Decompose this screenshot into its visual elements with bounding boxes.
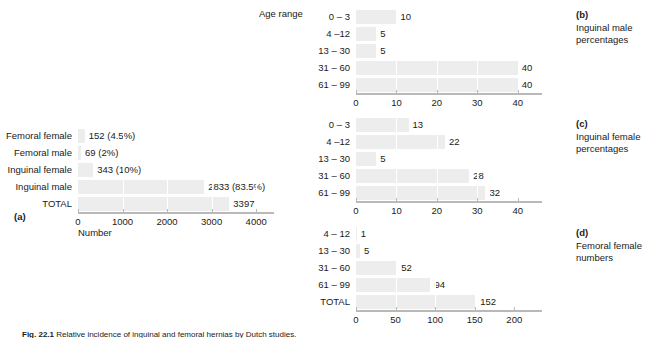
chart-b-tick: [437, 90, 438, 93]
chart-d-tick: [396, 307, 397, 310]
chart-a-row: Inguinal male2833 (83.5%): [78, 178, 274, 195]
chart-b-caption: Inguinal male percentages: [576, 22, 633, 45]
chart-a-row: Inguinal female343 (10%): [78, 161, 274, 178]
chart-a-tick: [167, 209, 168, 212]
chart-d-panel-letter: (d): [576, 227, 588, 238]
chart-a-axis-line: [78, 212, 274, 214]
chart-a-tick-label: 0: [75, 216, 80, 227]
chart-c-tick: [437, 198, 438, 201]
chart-b-axis-line: [356, 93, 542, 95]
chart-d-tick-label: 50: [390, 314, 401, 325]
chart-a-row-label: Femoral female: [6, 127, 78, 144]
chart-b-row: 0 – 310: [356, 8, 542, 25]
chart-d-caption: Femoral female numbers: [576, 240, 642, 263]
chart-a-bar-value: 3397: [229, 195, 254, 212]
chart-d-tick: [514, 307, 515, 310]
chart-b-row: 13 – 305: [356, 42, 542, 59]
chart-c-row: 13 – 305: [356, 150, 542, 167]
chart-c-tick-label: 0: [353, 205, 358, 216]
chart-c-tick-label: 20: [432, 205, 443, 216]
chart-b-bar-value: 5: [376, 42, 385, 59]
chart-b-row-label: 31 – 60: [318, 59, 356, 76]
chart-b-bar: [356, 10, 396, 24]
chart-c-row: 31 – 6028: [356, 167, 542, 184]
figure-caption-text: Relative incidence of inguinal and femor…: [56, 330, 296, 338]
chart-d-bar: [356, 295, 476, 309]
chart-b-tick-label: 10: [391, 97, 402, 108]
chart-c-tick-label: 10: [391, 205, 402, 216]
chart-d-gridline: [514, 225, 515, 310]
chart-d-bar: [356, 261, 397, 275]
chart-d-row-label: 13 – 30: [318, 242, 356, 259]
chart-a-tick: [256, 209, 257, 212]
chart-b-bar: [356, 44, 376, 58]
chart-d-bar-value: 1: [357, 225, 366, 242]
chart-a-tick: [123, 209, 124, 212]
chart-b-bar-value: 5: [376, 25, 385, 42]
chart-c-bar: [356, 118, 409, 132]
chart-d-tick-label: 100: [427, 314, 443, 325]
chart-d-rows: 4 – 12113 – 30531 – 605261 – 9994TOTAL15…: [356, 225, 542, 310]
chart-a-row: Femoral male69 (2%): [78, 144, 274, 161]
chart-b-row: 4 –125: [356, 25, 542, 42]
chart-a-gridline: [212, 127, 213, 212]
chart-c-bar-value: 13: [409, 116, 424, 133]
chart-c-bar: [356, 152, 376, 166]
chart-d-bar-value: 94: [430, 276, 445, 293]
chart-a-bar: [78, 129, 85, 143]
chart-c-row-label: 0 – 3: [329, 116, 356, 133]
chart-d-tick: [356, 307, 357, 310]
age-range-header: Age range: [259, 8, 303, 19]
chart-b-tick: [518, 90, 519, 93]
chart-d-tick-label: 0: [353, 314, 358, 325]
chart-c-tick-label: 40: [512, 205, 523, 216]
chart-b-rows: 0 – 3104 –12513 – 30531 – 604061 – 9940: [356, 8, 542, 93]
chart-a-tick-label: 1000: [112, 216, 133, 227]
chart-c-bar: [356, 135, 445, 149]
chart-c-tick-label: 30: [472, 205, 483, 216]
chart-a-tick-label: 3000: [201, 216, 222, 227]
chart-a-bar: [78, 163, 93, 177]
chart-a-panel-letter: (a): [14, 211, 26, 222]
chart-a-bar: [78, 197, 229, 211]
chart-c-gridline: [396, 116, 397, 201]
chart-b-bar-value: 10: [396, 8, 411, 25]
chart-a-gridline: [167, 127, 168, 212]
chart-d-bar-value: 152: [476, 293, 496, 310]
chart-b-tick-label: 30: [472, 97, 483, 108]
chart-c-row: 4 –1222: [356, 133, 542, 150]
chart-b-tick-label: 20: [432, 97, 443, 108]
chart-c-row-label: 61 – 99: [318, 184, 356, 201]
chart-b-panel: 0 – 3104 –12513 – 30531 – 604061 – 9940 …: [356, 8, 542, 93]
chart-a-tick-label: 4000: [246, 216, 267, 227]
chart-c-gridline: [518, 116, 519, 201]
chart-a-row-label: TOTAL: [42, 195, 78, 212]
chart-c-caption: Inguinal female percentages: [576, 131, 640, 154]
chart-c-row: 0 – 313: [356, 116, 542, 133]
chart-a-tick: [78, 209, 79, 212]
chart-c-row: 61 – 9932: [356, 184, 542, 201]
figure-caption-prefix: Fig. 22.1: [22, 330, 54, 338]
chart-c-row-label: 13 – 30: [318, 150, 356, 167]
chart-d-tick-label: 200: [506, 314, 522, 325]
chart-d-bar-value: 5: [360, 242, 369, 259]
chart-c-bar-value: 5: [376, 150, 385, 167]
chart-b-tick: [396, 90, 397, 93]
chart-d-gridline: [396, 225, 397, 310]
chart-a-row: Femoral female152 (4.5%): [78, 127, 274, 144]
chart-a-tick: [212, 209, 213, 212]
chart-b-row: 61 – 9940: [356, 76, 542, 93]
chart-a-tick-label: 2000: [157, 216, 178, 227]
chart-b-bar: [356, 27, 376, 41]
figure-caption: Fig. 22.1 Relative incidence of inguinal…: [22, 330, 296, 338]
chart-c-panel: 0 – 3134 –122213 – 30531 – 602861 – 9932…: [356, 116, 542, 201]
chart-c-gridline: [437, 116, 438, 201]
chart-d-bar-value: 52: [397, 259, 412, 276]
chart-d-row-label: 31 – 60: [318, 259, 356, 276]
chart-c-bar-value: 22: [445, 133, 460, 150]
chart-d-tick-label: 150: [467, 314, 483, 325]
chart-d-row-label: TOTAL: [320, 293, 356, 310]
chart-a-row-label: Inguinal male: [15, 178, 78, 195]
chart-a-row: TOTAL3397: [78, 195, 274, 212]
chart-b-row-label: 4 –12: [326, 25, 356, 42]
